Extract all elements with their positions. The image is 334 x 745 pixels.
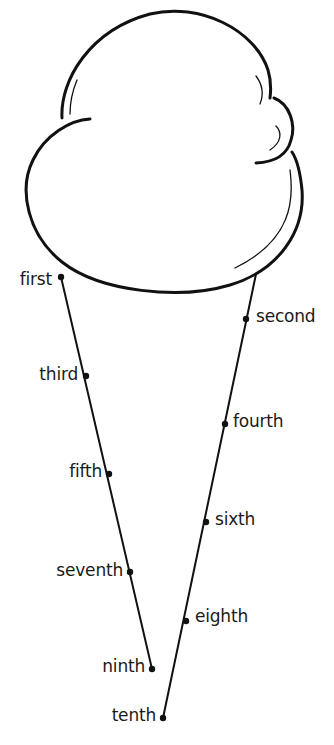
- scoop-top-outline: [62, 11, 271, 118]
- label-fifth: fifth: [69, 461, 102, 481]
- label-eighth: eighth: [195, 606, 248, 626]
- label-ninth: ninth: [102, 656, 145, 676]
- dot-first: [58, 274, 64, 280]
- ordinal-dots: [58, 274, 249, 721]
- scoop-highlight-left: [70, 80, 77, 114]
- label-first: first: [20, 269, 52, 289]
- scoop-highlight-bottom-right: [235, 170, 291, 268]
- dot-fifth: [106, 471, 112, 477]
- dot-second: [243, 316, 249, 322]
- label-sixth: sixth: [215, 509, 255, 529]
- label-third: third: [39, 364, 78, 384]
- scoop-highlight-top-right: [256, 76, 262, 104]
- dot-sixth: [203, 519, 209, 525]
- scoop-bottom-outline: [26, 119, 302, 292]
- label-second: second: [256, 306, 315, 326]
- scoop-right-bump: [256, 98, 293, 163]
- cone-right-edge: [163, 274, 256, 718]
- dot-third: [83, 373, 89, 379]
- ice-cream-cone-worksheet: first second third fourth fifth sixth se…: [0, 0, 334, 745]
- dot-eighth: [183, 618, 189, 624]
- dot-seventh: [127, 569, 133, 575]
- label-fourth: fourth: [233, 411, 283, 431]
- dot-ninth: [149, 666, 155, 672]
- cone: [61, 274, 256, 718]
- ice-cream-scoop: [26, 11, 302, 292]
- dot-fourth: [222, 421, 228, 427]
- label-tenth: tenth: [112, 705, 156, 725]
- scoop-highlight-bump: [270, 126, 280, 150]
- label-seventh: seventh: [56, 560, 123, 580]
- dot-tenth: [160, 715, 166, 721]
